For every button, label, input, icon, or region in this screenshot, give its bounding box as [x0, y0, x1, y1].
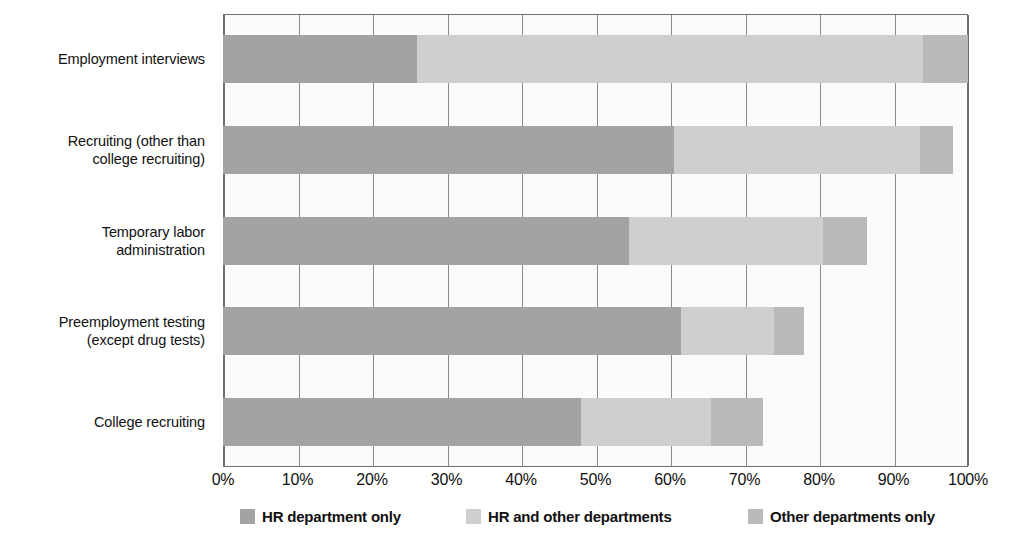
x-tick-100pct: 100% — [948, 471, 988, 489]
bar-segment-hr-department-only — [223, 35, 417, 83]
category-label-line: Employment interviews — [58, 50, 205, 68]
category-label-1: Employment interviews — [58, 50, 205, 68]
legend-item-hr-department-only[interactable]: HR department only — [240, 508, 401, 525]
category-label-line: Preemployment testing — [59, 313, 205, 331]
bar-segment-hr-and-other-departments — [629, 217, 823, 265]
x-tick-0pct: 0% — [212, 471, 235, 489]
x-tick-50pct: 50% — [580, 471, 611, 489]
x-tick-10pct: 10% — [282, 471, 313, 489]
bar-segment-hr-and-other-departments — [581, 398, 711, 446]
bar-segment-other-departments-only — [711, 398, 763, 446]
x-axis-tick-labels: 0%10%20%30%40%50%60%70%80%90%100% — [0, 471, 1019, 497]
category-label-line: administration — [102, 241, 205, 259]
category-label-line: College recruiting — [94, 413, 205, 431]
legend-item-other-departments-only[interactable]: Other departments only — [748, 508, 935, 525]
category-label-line: (except drug tests) — [59, 331, 205, 349]
bar-row — [223, 35, 968, 83]
legend-label: HR department only — [262, 508, 401, 525]
x-tick-60pct: 60% — [654, 471, 685, 489]
bar-segment-hr-department-only — [223, 217, 629, 265]
bar-segment-other-departments-only — [774, 307, 804, 355]
category-label-2: Recruiting (other thancollege recruiting… — [68, 132, 205, 168]
bar-segment-other-departments-only — [823, 217, 868, 265]
gridline-100pct — [968, 15, 969, 466]
bar-segment-hr-department-only — [223, 398, 581, 446]
legend-label: HR and other departments — [488, 508, 672, 525]
x-tick-80pct: 80% — [803, 471, 834, 489]
bar-segment-hr-and-other-departments — [674, 126, 920, 174]
legend-swatch-icon — [748, 509, 763, 524]
legend-swatch-icon — [240, 509, 255, 524]
bar-segment-hr-department-only — [223, 126, 674, 174]
x-tick-70pct: 70% — [729, 471, 760, 489]
bars-layer — [223, 14, 968, 467]
x-tick-90pct: 90% — [878, 471, 909, 489]
stacked-bar-chart: Employment interviewsRecruiting (other t… — [0, 0, 1019, 546]
bar-segment-hr-and-other-departments — [681, 307, 774, 355]
x-tick-30pct: 30% — [431, 471, 462, 489]
legend-label: Other departments only — [770, 508, 935, 525]
bar-row — [223, 398, 968, 446]
bar-row — [223, 126, 968, 174]
category-axis-labels: Employment interviewsRecruiting (other t… — [0, 14, 215, 467]
bar-segment-other-departments-only — [923, 35, 968, 83]
bar-segment-other-departments-only — [920, 126, 954, 174]
category-label-4: Preemployment testing(except drug tests) — [59, 313, 205, 349]
legend-item-hr-and-other-departments[interactable]: HR and other departments — [466, 508, 672, 525]
bar-segment-hr-department-only — [223, 307, 681, 355]
bar-row — [223, 307, 968, 355]
category-label-3: Temporary laboradministration — [102, 223, 205, 259]
legend-swatch-icon — [466, 509, 481, 524]
category-label-line: college recruiting) — [68, 150, 205, 168]
category-label-line: Temporary labor — [102, 223, 205, 241]
x-tick-40pct: 40% — [505, 471, 536, 489]
x-tick-20pct: 20% — [356, 471, 387, 489]
category-label-5: College recruiting — [94, 413, 205, 431]
bar-segment-hr-and-other-departments — [417, 35, 924, 83]
category-label-line: Recruiting (other than — [68, 132, 205, 150]
chart-legend: HR department onlyHR and other departmen… — [0, 508, 1019, 538]
bar-row — [223, 217, 968, 265]
